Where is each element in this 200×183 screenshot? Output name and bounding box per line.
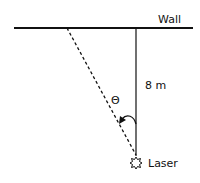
diagram-drawing: [0, 0, 200, 183]
laser-wall-diagram: Wall 8 m Θ Laser: [0, 0, 200, 183]
laser-beam-dashed-line: [67, 28, 136, 155]
wall-label: Wall: [158, 14, 181, 25]
angle-label: Θ: [111, 95, 120, 106]
laser-label: Laser: [148, 158, 178, 169]
angle-arc-arrow-icon: [119, 116, 136, 124]
distance-label: 8 m: [145, 80, 166, 91]
laser-burst-icon: [130, 157, 142, 169]
